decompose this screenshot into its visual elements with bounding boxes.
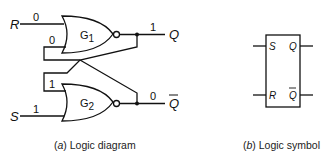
value-qbar: 0 [150, 90, 156, 102]
junction-qbar [135, 102, 139, 106]
caption-a: (a) Logic diagram [54, 139, 136, 151]
g2-bubble [114, 101, 120, 107]
caption-b: (b) Logic symbol [243, 139, 320, 151]
input-s-label: S [10, 109, 19, 124]
sr-latch-diagram: R S 0 1 0 1 1 0 Q Q G1 G2 S R Q Q [0, 0, 323, 160]
value-g2-feedback: 1 [49, 78, 55, 90]
logic-symbol [253, 35, 313, 107]
value-g1-feedback: 0 [49, 34, 55, 46]
value-q: 1 [150, 21, 156, 33]
symbol-qbar: Q [289, 90, 297, 101]
input-r-label: R [10, 17, 19, 32]
symbol-r: R [269, 90, 276, 101]
output-qbar-label: Q [169, 96, 179, 111]
output-q-label: Q [169, 27, 179, 42]
symbol-s: S [269, 41, 276, 52]
g1-bubble [114, 32, 120, 38]
junction-q [135, 33, 139, 37]
value-r: 0 [33, 11, 39, 23]
symbol-q: Q [289, 41, 297, 52]
value-s: 1 [33, 103, 39, 115]
